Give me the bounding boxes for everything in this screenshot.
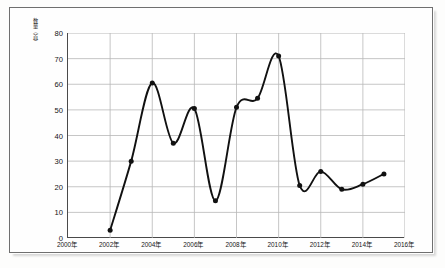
x-tick-label: 2006年	[183, 240, 203, 249]
x-tick-label: 2004年	[141, 240, 161, 249]
data-point	[360, 182, 365, 187]
x-tick-label: 2010年	[268, 240, 288, 249]
data-point	[108, 228, 113, 233]
y-tick-label: 80	[41, 29, 63, 38]
y-tick-label: 60	[41, 80, 63, 89]
data-point	[150, 80, 155, 85]
data-point	[234, 105, 239, 110]
x-tick-label: 2002年	[99, 240, 119, 249]
y-tick-label: 30	[41, 157, 63, 166]
data-markers	[108, 54, 387, 233]
x-axis-tick-labels: 2000年2002年2004年2006年2008年2010年2012年2014年…	[67, 240, 404, 254]
data-point	[255, 96, 260, 101]
chart-page: 数量（首） 01020304050607080 2000年2002年2004年2…	[0, 0, 445, 268]
y-tick-label: 10	[41, 208, 63, 217]
x-tick-label: 2008年	[225, 240, 245, 249]
data-line	[110, 53, 384, 230]
y-tick-label: 20	[41, 182, 63, 191]
data-point	[339, 187, 344, 192]
document-frame: 数量（首） 01020304050607080 2000年2002年2004年2…	[9, 7, 433, 253]
data-point	[129, 159, 134, 164]
x-tick-label: 2000年	[57, 240, 77, 249]
data-point	[297, 183, 302, 188]
data-point	[192, 106, 197, 111]
x-tick-label: 2012年	[310, 240, 330, 249]
data-point	[318, 169, 323, 174]
data-point	[276, 54, 281, 59]
y-tick-label: 70	[41, 54, 63, 63]
plot-area	[67, 33, 404, 238]
y-tick-label: 50	[41, 105, 63, 114]
y-tick-label: 40	[41, 131, 63, 140]
chart-svg	[68, 33, 405, 238]
data-point	[213, 198, 218, 203]
data-point	[171, 141, 176, 146]
x-tick-label: 2014年	[352, 240, 372, 249]
data-point	[381, 171, 386, 176]
y-axis-tick-labels: 01020304050607080	[37, 33, 63, 238]
gridlines	[68, 33, 405, 238]
x-tick-label: 2016年	[394, 240, 414, 249]
